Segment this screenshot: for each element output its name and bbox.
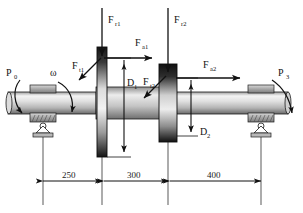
label-power-input: P 0 [6,67,17,80]
shaft-end-left [6,92,12,114]
label-axial-2-text: F [203,59,209,70]
dimension-label-250: 250 [62,170,76,180]
gear-disc-1-body [97,47,107,157]
label-axial-2: F a2 [203,59,216,72]
label-axial-1-text: F [135,37,141,48]
shaft-loading-figure: P 0 ω P 3 F r1 F r2 F a1 F a2 F t1 F t2 … [0,0,303,213]
label-axial-1-sub: a1 [142,43,148,50]
shaft-segment-left [8,92,96,114]
label-radial-2-text: F [174,14,180,25]
label-power-input-sub: 0 [14,73,17,80]
label-radial-1-sub: r1 [115,20,120,27]
label-radial-2-sub: r2 [181,20,186,27]
label-diameter-1-sub: 1 [134,83,137,90]
label-diameter-2: D 2 [200,126,210,139]
label-tangential-1-text: F [72,60,78,71]
gear-disc-1 [97,47,107,157]
dimension-label-400: 400 [207,170,221,180]
label-axial-2-sub: a2 [210,65,216,72]
label-radial-1: F r1 [108,14,120,27]
label-tangential-1: F t1 [72,60,84,73]
label-tangential-2-text: F [143,76,149,87]
bearing-left-support-triangle [36,126,50,133]
label-tangential-1-sub: t1 [79,66,84,73]
label-power-input-text: P [6,67,12,78]
label-radial-2: F r2 [174,14,186,27]
bearing-right-support-triangle [254,126,268,133]
label-power-output: P 3 [278,67,289,80]
label-power-output-sub: 3 [286,73,289,80]
dimension-label-300: 300 [127,170,141,180]
label-radial-1-text: F [108,14,114,25]
label-diameter-2-sub: 2 [207,132,210,139]
diagram-canvas: P 0 ω P 3 F r1 F r2 F a1 F a2 F t1 F t2 … [0,0,303,213]
shaft-segment-right [176,92,288,114]
bearing-left-top-block [30,85,56,93]
label-power-output-text: P [278,67,284,78]
gear-disc-2 [159,64,177,142]
bearing-left-ground-base [33,133,53,137]
bearing-right-top-block [248,85,274,93]
gear-disc-2-body [159,64,177,142]
dimension-extension-lines [43,137,261,205]
label-tangential-2-sub: t2 [150,82,155,89]
label-axial-1: F a1 [135,37,148,50]
label-omega: ω [50,67,57,78]
bearing-right-ground-base [251,133,271,137]
